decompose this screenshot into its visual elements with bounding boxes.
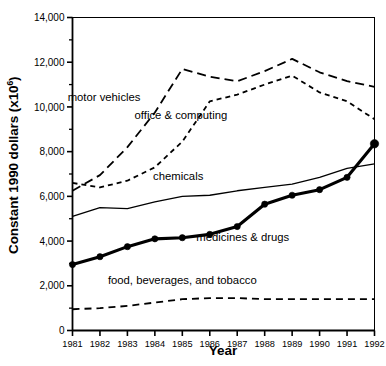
data-point-marker [97, 254, 103, 260]
data-point-marker [179, 235, 185, 241]
data-point-marker [262, 201, 268, 207]
series-label-office-computing: office & computing [135, 109, 228, 121]
series-line-medicines-drugs [73, 144, 375, 265]
data-point-marker [69, 261, 75, 267]
data-point-marker [370, 140, 378, 148]
y-tick-label: 0 [59, 325, 65, 336]
data-point-marker [152, 236, 158, 242]
chart-figure: Constant 1990 dollars (x106) 02,0004,000… [0, 0, 386, 366]
y-tick-label: 12,000 [34, 57, 65, 68]
y-tick-label: 8,000 [39, 146, 64, 157]
data-markers-group [69, 140, 378, 268]
y-axis-tick-labels: 02,0004,0006,0008,00010,00012,00014,000 [34, 12, 65, 336]
chart-canvas: 02,0004,0006,0008,00010,00012,00014,000 … [0, 0, 386, 366]
series-label-chemicals: chemicals [153, 170, 204, 182]
y-tick-label: 4,000 [39, 236, 64, 247]
series-line-motor-vehicles [73, 59, 375, 191]
series-line-chemicals [73, 164, 375, 217]
series-line-food-beverages-and-tobacco [73, 298, 375, 309]
series-label-motor-vehicles: motor vehicles [68, 91, 141, 103]
y-tick-label: 2,000 [39, 280, 64, 291]
y-tick-label: 6,000 [39, 191, 64, 202]
data-point-marker [234, 223, 240, 229]
x-axis-title: Year [72, 343, 374, 358]
data-point-marker [289, 192, 295, 198]
y-tick-label: 14,000 [34, 12, 65, 23]
y-tick-label: 10,000 [34, 102, 65, 113]
data-point-marker [124, 244, 130, 250]
data-point-marker [344, 174, 350, 180]
series-label-medicines-drugs: medicines & drugs [196, 231, 289, 243]
data-point-marker [316, 187, 322, 193]
series-label-food-beverages-and-tobacco: food, beverages, and tobacco [108, 274, 257, 286]
